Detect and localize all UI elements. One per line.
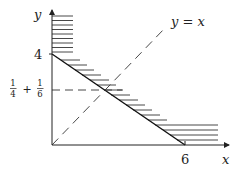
fraction-label: 1 4 + 1 6 bbox=[10, 78, 44, 99]
y-equals-x-line bbox=[52, 28, 165, 145]
constraint-boundary-line bbox=[52, 54, 185, 145]
y-axis-label: y bbox=[33, 7, 42, 22]
y-tick-label: 4 bbox=[34, 47, 42, 62]
feasible-region-diagram: y x 4 6 y = x 1 4 + 1 6 bbox=[0, 0, 243, 174]
svg-text:1: 1 bbox=[37, 78, 42, 88]
hatch-region-top bbox=[52, 16, 73, 52]
hatch-region-slope bbox=[61, 60, 218, 140]
x-axis-label: x bbox=[222, 152, 230, 167]
svg-text:+: + bbox=[22, 83, 31, 96]
x-tick-label: 6 bbox=[181, 152, 189, 167]
svg-text:1: 1 bbox=[10, 78, 15, 88]
line-label: y = x bbox=[170, 14, 206, 29]
svg-text:4: 4 bbox=[10, 89, 15, 99]
svg-text:6: 6 bbox=[37, 89, 42, 99]
